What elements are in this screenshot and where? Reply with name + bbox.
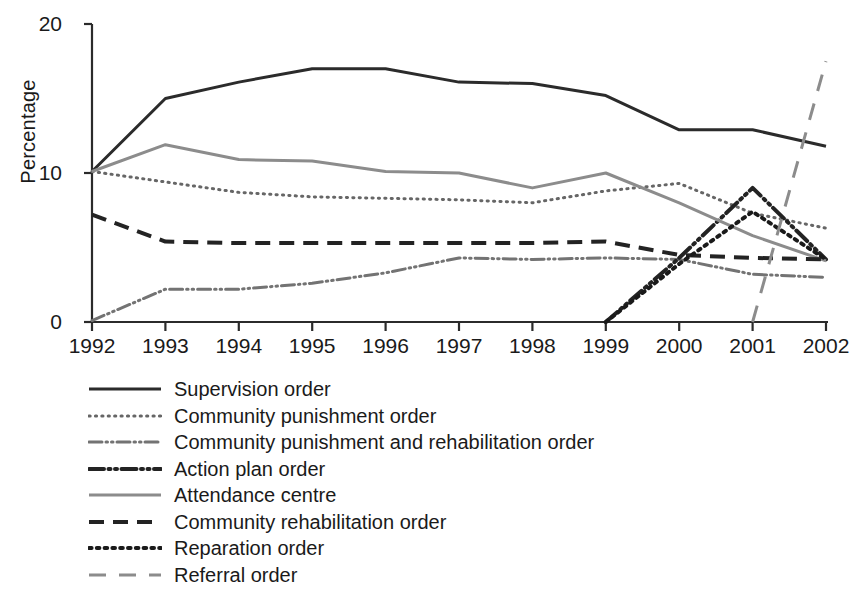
legend-line-swatch: [88, 513, 162, 531]
legend-item[interactable]: Community punishment and rehabilitation …: [88, 429, 594, 456]
legend-item-label: Referral order: [174, 565, 297, 585]
x-tick-label: 2001: [729, 334, 776, 358]
series-line: [92, 69, 826, 172]
legend-line-swatch: [88, 380, 162, 398]
y-axis-ticks: 01020: [0, 0, 62, 604]
y-tick-label: 20: [39, 12, 62, 36]
x-tick-label: 1997: [436, 334, 483, 358]
series-line: [753, 61, 826, 322]
legend-item-label: Action plan order: [174, 459, 325, 479]
legend-line-swatch: [88, 460, 162, 478]
x-tick-label: 1994: [215, 334, 262, 358]
legend-item-label: Community rehabilitation order: [174, 512, 446, 532]
x-tick-label: 1996: [362, 334, 409, 358]
legend-item-label: Community punishment order: [174, 406, 436, 426]
x-tick-label: 1993: [142, 334, 189, 358]
chart-legend: Supervision orderCommunity punishment or…: [88, 376, 594, 588]
legend-item-label: Reparation order: [174, 538, 324, 558]
legend-line-swatch: [88, 433, 162, 451]
legend-item-label: Supervision order: [174, 379, 331, 399]
y-tick-label: 10: [39, 161, 62, 185]
series-line: [92, 258, 826, 321]
legend-item[interactable]: Community rehabilitation order: [88, 509, 594, 536]
legend-line-swatch: [88, 539, 162, 557]
x-tick-label: 1992: [69, 334, 116, 358]
legend-item[interactable]: Community punishment order: [88, 403, 594, 430]
legend-line-swatch: [88, 407, 162, 425]
y-tick-label: 0: [50, 310, 62, 334]
legend-item[interactable]: Action plan order: [88, 456, 594, 483]
x-tick-label: 1998: [509, 334, 556, 358]
legend-item[interactable]: Attendance centre: [88, 482, 594, 509]
legend-line-swatch: [88, 486, 162, 504]
x-tick-label: 2000: [656, 334, 703, 358]
x-tick-label: 2002: [803, 334, 850, 358]
legend-line-swatch: [88, 566, 162, 584]
x-tick-label: 1995: [289, 334, 336, 358]
legend-item[interactable]: Supervision order: [88, 376, 594, 403]
legend-item-label: Attendance centre: [174, 485, 336, 505]
line-chart: Percentage 01020 Supervision orderCommun…: [0, 0, 850, 604]
legend-item[interactable]: Reparation order: [88, 535, 594, 562]
legend-item-label: Community punishment and rehabilitation …: [174, 432, 594, 452]
x-tick-label: 1999: [582, 334, 629, 358]
legend-item[interactable]: Referral order: [88, 562, 594, 589]
